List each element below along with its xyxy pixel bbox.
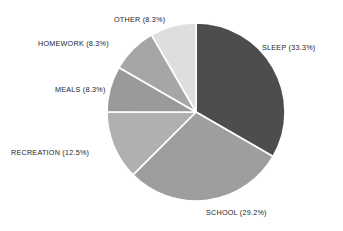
pie-label-school: SCHOOL (29.2%) (206, 208, 267, 217)
pie-chart-figure: SLEEP (33.3%) SCHOOL (29.2%) RECREATION … (0, 0, 343, 231)
pie-label-sleep: SLEEP (33.3%) (262, 43, 315, 52)
pie-label-meals: MEALS (8.3%) (55, 85, 106, 94)
pie-chart-canvas (0, 0, 343, 231)
pie-label-recreation: RECREATION (12.5%) (11, 148, 89, 157)
pie-label-homework: HOMEWORK (8.3%) (38, 39, 109, 48)
pie-label-other: OTHER (8.3%) (114, 15, 165, 24)
pie-slice-group (107, 23, 285, 201)
